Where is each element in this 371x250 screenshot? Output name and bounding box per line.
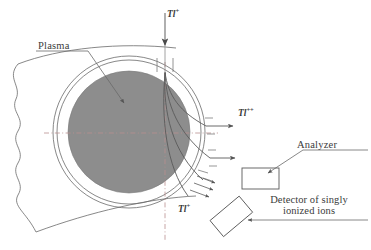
label-detector: Detector of singly ionized ions <box>251 194 367 217</box>
slit-tick-e <box>198 170 208 173</box>
ion-charge-doubly: ++ <box>246 106 253 113</box>
leader-analyzer <box>268 150 368 173</box>
label-ion-injected: Tl+ <box>167 7 179 19</box>
label-detector-line1: Detector of singly <box>251 194 367 205</box>
diagram-canvas: Plasma Analyzer Detector of singly ioniz… <box>0 0 371 250</box>
analyzer-box[interactable] <box>242 168 279 189</box>
slit-tick-f <box>203 178 212 181</box>
ion-charge-singly: + <box>186 202 190 209</box>
injection-arrow <box>157 13 173 72</box>
label-ion-singly: Tl+ <box>178 202 190 214</box>
label-plasma: Plasma <box>38 40 70 51</box>
detector-box[interactable] <box>210 196 253 237</box>
label-detector-line2: ionized ions <box>251 205 367 216</box>
exit-arrows-lower <box>190 170 215 197</box>
label-ion-doubly: Tl++ <box>238 106 253 118</box>
label-analyzer: Analyzer <box>297 139 337 150</box>
ion-charge-injected: + <box>175 7 179 14</box>
exit-arrows-right <box>205 118 235 166</box>
